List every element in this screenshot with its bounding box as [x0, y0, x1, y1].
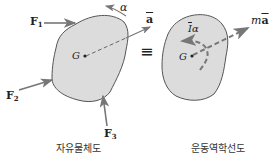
alpha-label: α	[120, 2, 127, 13]
free-body-shape	[52, 15, 128, 101]
force-f3-label: F3	[104, 128, 117, 139]
kd-caption: 운동역학선도	[191, 144, 245, 154]
equivalence-symbol: ≡	[140, 44, 153, 60]
force-f3-arrow	[103, 96, 107, 126]
force-f2-label: F2	[6, 90, 19, 101]
fbd-center-label: G	[72, 51, 80, 61]
moment-label: Iα	[188, 24, 199, 34]
kd-center-label: G	[179, 52, 187, 62]
inertia-force-label: ma	[251, 15, 269, 26]
force-f2-arrow	[19, 80, 52, 90]
accel-label: a	[146, 14, 153, 25]
accel-arrow	[126, 27, 150, 38]
force-f1-label: F1	[30, 16, 43, 27]
fbd-caption: 자유물체도	[56, 144, 101, 154]
